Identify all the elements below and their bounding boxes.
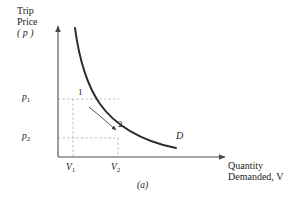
x-axis-title: Quantity Demanded, V: [228, 160, 283, 182]
demand-curve: [75, 28, 176, 148]
point-label-1: 1: [78, 87, 83, 97]
y-axis-title: Trip Price ( p ): [17, 5, 38, 39]
demand-curve-figure: Trip Price ( p ) Quantity Demanded, V p1…: [0, 0, 299, 204]
x-axis-title-line-2: Demanded, V: [228, 171, 283, 182]
point-label-2: 2: [118, 119, 123, 129]
demand-curve-label: D: [176, 130, 183, 141]
y-tick-label-p2: p2: [22, 131, 30, 143]
x-axis-title-line-1: Quantity: [228, 160, 283, 171]
y-axis-title-line-2: Price: [17, 16, 38, 27]
gridlines: [58, 99, 119, 157]
y-tick-label-p1: p1: [22, 92, 30, 104]
y-axis-title-line-1: Trip: [17, 5, 38, 16]
figure-caption: (a): [137, 180, 148, 191]
x-tick-label-v2: V2: [111, 162, 120, 174]
y-axis-title-line-3: ( p ): [17, 27, 38, 38]
x-tick-label-v1: V1: [66, 162, 75, 174]
